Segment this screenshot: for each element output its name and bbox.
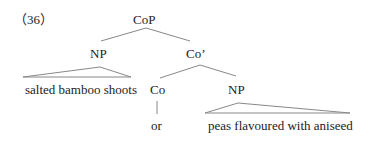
branch-cop-cobar	[146, 28, 190, 41]
right-phrase: peas flavoured with aniseed	[208, 118, 353, 133]
example-number: （36）	[14, 12, 53, 27]
node-right-np: NP	[228, 82, 245, 97]
node-cop: CoP	[133, 12, 155, 27]
left-phrase: salted bamboo shoots	[25, 82, 137, 97]
node-left-np: NP	[90, 46, 107, 61]
triangle-right-np	[205, 103, 350, 113]
conjunction-or: or	[151, 118, 162, 133]
branch-cobar-np	[200, 65, 236, 76]
node-co: Co	[150, 82, 165, 97]
triangle-left-np	[23, 67, 131, 77]
branch-cobar-co	[160, 65, 200, 78]
node-co-bar: Co’	[186, 46, 206, 61]
branch-cop-np	[101, 28, 146, 41]
